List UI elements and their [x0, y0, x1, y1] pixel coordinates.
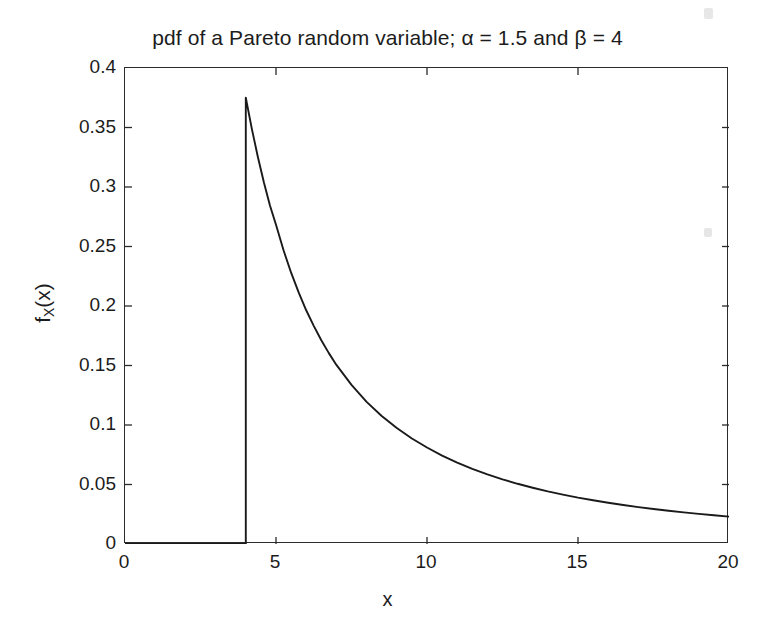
chart-title: pdf of a Pareto random variable; α = 1.5… — [0, 26, 775, 50]
y-axis-label: fX(x) — [14, 243, 74, 363]
y-tick-label: 0.15 — [79, 355, 116, 374]
x-tick-label: 0 — [119, 552, 130, 571]
y-tick-label: 0 — [105, 533, 116, 552]
plot-svg — [125, 68, 729, 544]
x-tick-label: 5 — [270, 552, 281, 571]
y-tick-label: 0.25 — [79, 236, 116, 255]
y-tick-label: 0.2 — [90, 295, 116, 314]
x-tick-label: 15 — [566, 552, 587, 571]
pdf-curve — [125, 98, 729, 544]
y-axis-label-argument: (x) — [31, 283, 54, 308]
figure-canvas: pdf of a Pareto random variable; α = 1.5… — [0, 0, 775, 625]
y-tick-label: 0.1 — [90, 414, 116, 433]
y-axis-label-main: f — [31, 317, 54, 323]
y-axis-label-text: fX(x) — [31, 283, 57, 323]
y-tick-label: 0.35 — [79, 117, 116, 136]
x-tick-label: 20 — [717, 552, 738, 571]
y-tick-label: 0.3 — [90, 176, 116, 195]
x-axis-tick-labels: 05101520 — [0, 552, 775, 582]
y-axis-label-subscript: X — [41, 308, 57, 317]
x-tick-label: 10 — [415, 552, 436, 571]
axis-tick-marks — [125, 68, 729, 544]
x-axis-label: x — [0, 588, 775, 611]
plot-area — [124, 67, 728, 543]
y-tick-label: 0.4 — [90, 57, 116, 76]
y-tick-label: 0.05 — [79, 474, 116, 493]
scan-artifact-top — [704, 8, 713, 19]
